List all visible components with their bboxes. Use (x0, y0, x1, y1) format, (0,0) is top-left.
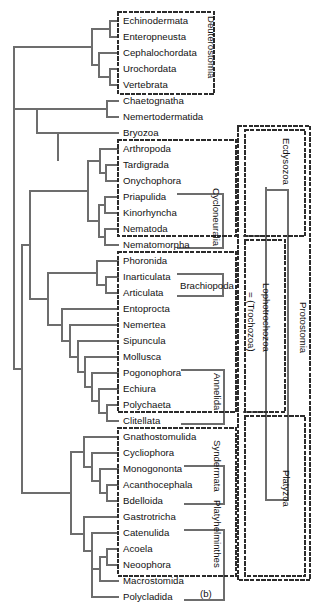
taxon-label: Polycladida (123, 592, 173, 602)
taxon-label: Articulata (123, 288, 164, 298)
taxon-label: Phoronida (123, 256, 167, 266)
taxon-label: Tardigrada (123, 160, 169, 170)
taxon-label: Entoprocta (123, 304, 170, 314)
clade-label-cycloneuralia: Cycloneuralia (211, 188, 222, 246)
taxon-label: Monogononta (123, 464, 182, 474)
taxon-label: Priapulida (123, 192, 166, 202)
taxon-label: Enteropneusta (123, 32, 186, 42)
taxon-label: Cephalochordata (123, 48, 197, 58)
clade-label-platyhelminthes: Platyhelminthes (212, 500, 223, 568)
taxon-label: Echinodermata (123, 16, 188, 26)
taxon-label: Nemertodermatida (123, 112, 203, 122)
taxon-label: Sipuncula (123, 336, 166, 346)
taxon-label: Catenulida (123, 528, 169, 538)
taxon-label: Vertebrata (123, 80, 168, 90)
taxon-label: Bdelloida (123, 496, 163, 506)
taxon-label: Kinorhyncha (123, 208, 177, 218)
taxon-label: Acoela (123, 544, 153, 554)
taxon-label: Bryozoa (123, 128, 159, 138)
taxon-label: Clitellata (123, 416, 160, 426)
clade-label-trochozoa-alt: = (Trochozoa) (246, 292, 257, 352)
taxon-label: Mollusca (123, 352, 161, 362)
taxon-label: Inarticulata (123, 272, 171, 282)
taxon-label: Chaetognatha (123, 96, 184, 106)
taxon-label: Nematomorpha (123, 240, 190, 250)
clade-label-brachiopoda: Brachiopoda (180, 280, 234, 291)
clade-label-annelida: Annelida (212, 373, 223, 410)
taxon-label: Nemertea (123, 320, 166, 330)
phylogenetic-tree-figure: Echinodermata Enteropneusta Cephalochord… (0, 0, 313, 607)
taxon-label: Acanthocephala (123, 480, 193, 490)
clade-label-protostomia: Protostomia (298, 302, 309, 353)
taxon-label: Onychophora (123, 176, 181, 186)
taxon-label: Polychaeta (123, 400, 171, 410)
taxon-label: Macrostomida (123, 576, 184, 586)
taxon-label: Arthropoda (123, 144, 171, 154)
taxon-label: Gastrotricha (123, 512, 176, 522)
taxon-label: Nematoda (123, 224, 168, 234)
clade-label-deuterostomia: Deuterostomia (206, 16, 217, 78)
clade-label-platyzoa: Platyzoa (281, 470, 292, 507)
figure-caption: (b) (200, 588, 212, 599)
clade-label-ecdysozoa: Ecdysozoa (281, 138, 292, 185)
taxon-label: Urochordata (123, 64, 176, 74)
clade-label-syndermata: Syndermata (212, 440, 223, 492)
taxon-label: Gnathostomulida (123, 432, 196, 442)
taxon-label: Neoophora (123, 560, 171, 570)
taxon-label: Pogonophora (123, 368, 181, 378)
taxon-label: Cycliophora (123, 448, 174, 458)
taxon-label: Echiura (123, 384, 156, 394)
clade-label-lophotrochozoa: Lophotrochozoa (261, 283, 272, 352)
